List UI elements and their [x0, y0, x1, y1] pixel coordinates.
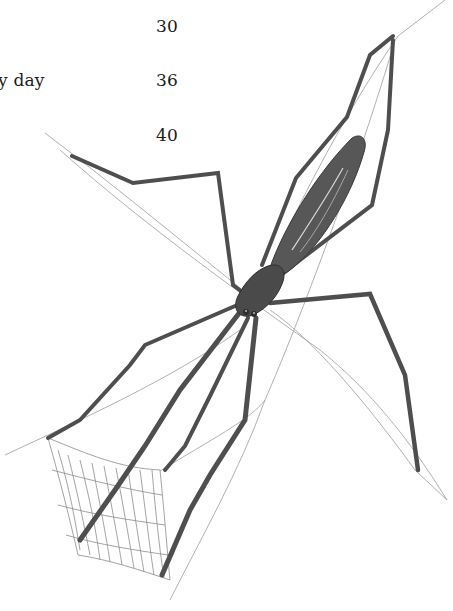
silk-net — [48, 438, 170, 580]
spider-legs — [48, 36, 418, 575]
spider-illustration — [0, 0, 453, 611]
cephalothorax — [236, 265, 284, 316]
silk-threads — [5, 0, 447, 600]
